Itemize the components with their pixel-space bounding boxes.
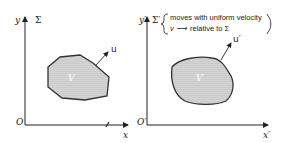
annotation-line-2: relative to Σ: [190, 25, 229, 33]
left-frame-label: Σ: [35, 16, 41, 25]
velocity-u-label: u: [111, 45, 117, 54]
volume-v: [48, 55, 109, 100]
left-y-axis-label: y: [15, 16, 20, 25]
velocity-u-prime-arrow: [221, 43, 231, 60]
left-origin-label: O: [16, 118, 23, 127]
left-x-axis-label: x: [123, 131, 128, 140]
volume-v-label: V: [68, 74, 75, 83]
velocity-u-arrow: [96, 52, 108, 65]
annotation-line-1: moves with uniform velocity: [170, 14, 262, 22]
annotation-velocity-v: v ⟶: [170, 25, 187, 33]
right-frame-label: Σ′: [152, 16, 160, 25]
volume-v-prime-label: V′: [196, 74, 205, 83]
right-origin-label: O′: [137, 118, 146, 127]
velocity-u-prime-label: u′: [233, 35, 241, 44]
right-x-axis-label: x′: [263, 131, 270, 140]
right-y-axis-label: y′: [139, 16, 146, 25]
